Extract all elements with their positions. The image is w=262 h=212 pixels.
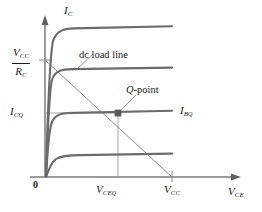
dc-load-line-group <box>39 60 172 182</box>
curve-ib-q <box>46 111 172 177</box>
vcc-over-rc-denominator: RC <box>12 65 30 80</box>
curve-ib-bottom <box>46 154 172 177</box>
dc-load-line-label: dc load line <box>79 50 128 61</box>
fraction-bar <box>12 63 30 64</box>
y-axis-label: IC <box>64 5 72 18</box>
ibq-curve-label: IBQ <box>180 105 192 118</box>
origin-label: 0 <box>33 180 38 190</box>
vceq-tick-label: VCEQ <box>96 184 116 197</box>
vcc-over-rc-numerator: VCC <box>12 47 30 62</box>
icq-tick-label: ICQ <box>10 106 23 119</box>
dc-load-line <box>45 60 172 177</box>
q-point-marker <box>115 110 122 117</box>
vcc-tick-label: VCC <box>164 184 180 197</box>
axis-group <box>30 15 241 180</box>
y-axis-arrowhead <box>42 15 49 25</box>
x-axis-arrowhead <box>231 174 241 181</box>
characteristic-curves-figure <box>0 0 262 212</box>
q-point-leader <box>121 95 136 110</box>
x-axis-label: VCE <box>228 186 244 199</box>
q-point-label: Q-point <box>126 85 159 96</box>
vcc-over-rc-label: VCC RC <box>12 47 30 79</box>
q-point-guides <box>45 113 118 177</box>
